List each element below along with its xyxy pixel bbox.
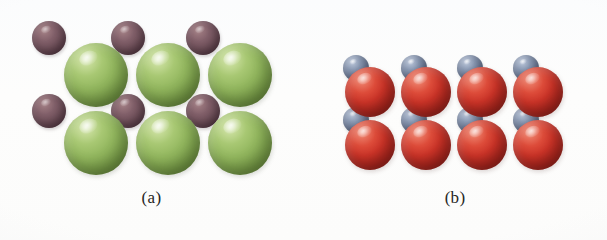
small-maroon-sphere — [186, 21, 220, 55]
large-red-sphere — [401, 67, 451, 117]
panel-b-caption: (b) — [303, 188, 607, 208]
figure-root: (a) (b) — [0, 0, 607, 240]
large-green-sphere — [136, 111, 200, 175]
panel-b: (b) — [303, 0, 607, 240]
large-green-sphere — [208, 43, 272, 107]
large-red-sphere — [457, 120, 507, 170]
large-red-sphere — [345, 67, 395, 117]
small-maroon-sphere — [32, 94, 66, 128]
large-red-sphere — [513, 67, 563, 117]
small-maroon-sphere — [32, 21, 66, 55]
panel-a-caption: (a) — [0, 188, 303, 208]
large-green-sphere — [208, 111, 272, 175]
large-green-sphere — [136, 43, 200, 107]
large-red-sphere — [401, 120, 451, 170]
large-red-sphere — [513, 120, 563, 170]
large-red-sphere — [457, 67, 507, 117]
large-red-sphere — [345, 120, 395, 170]
large-green-sphere — [64, 43, 128, 107]
panel-a: (a) — [0, 0, 303, 240]
large-green-sphere — [64, 111, 128, 175]
